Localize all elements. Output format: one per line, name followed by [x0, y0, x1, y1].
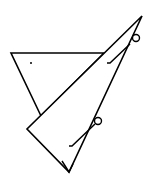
- center-dot: [30, 62, 32, 64]
- circle-marker-bottom: [95, 118, 102, 125]
- tall-triangle: [27, 16, 142, 172]
- diagram-canvas: [0, 0, 151, 188]
- circle-marker-top: [133, 35, 140, 42]
- triangles-diagram: [0, 0, 151, 188]
